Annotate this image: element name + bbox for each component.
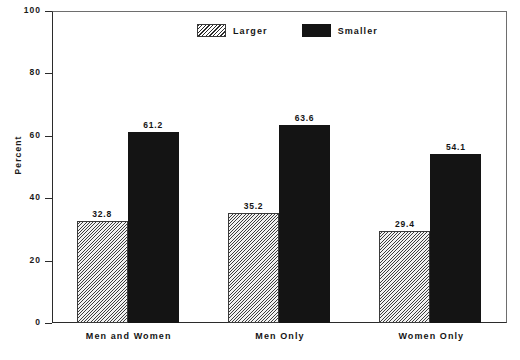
y-axis-tick-label: 40 <box>0 192 41 202</box>
bar-value-label: 29.4 <box>395 219 415 229</box>
hatch-swatch-icon <box>197 24 226 37</box>
bar-value-label: 32.8 <box>92 209 112 219</box>
y-axis-tick-label: 80 <box>0 67 41 77</box>
y-axis-tick-label: 20 <box>0 255 41 265</box>
bar-smaller-men-and-women: 61.2 <box>128 132 179 323</box>
legend: LargerSmaller <box>197 24 378 37</box>
bar-value-label: 61.2 <box>143 120 163 130</box>
x-axis-label-women-only: Women Only <box>356 331 507 341</box>
y-axis-title: Percent <box>13 115 23 195</box>
x-axis-label-men-only: Men Only <box>204 331 355 341</box>
y-axis-tick-label: 100 <box>0 5 41 15</box>
y-axis-tick-mark <box>45 198 52 199</box>
legend-item-smaller: Smaller <box>302 24 378 37</box>
y-axis-tick-mark <box>45 11 52 12</box>
y-axis-tick-mark <box>45 261 52 262</box>
solid-swatch-icon <box>302 24 331 37</box>
y-axis-tick-mark <box>45 323 52 324</box>
bars-layer: 32.861.235.263.629.454.1 <box>53 11 507 323</box>
bar-chart: Percent 020406080100 32.861.235.263.629.… <box>0 0 520 360</box>
bar-value-label: 35.2 <box>244 201 264 211</box>
legend-label: Smaller <box>338 26 378 36</box>
bar-value-label: 54.1 <box>446 142 466 152</box>
bar-larger-men-and-women: 32.8 <box>77 221 128 323</box>
bar-larger-men-only: 35.2 <box>228 213 279 323</box>
x-axis-label-men-and-women: Men and Women <box>53 331 204 341</box>
y-axis-tick-mark <box>45 136 52 137</box>
bar-value-label: 63.6 <box>295 113 315 123</box>
bar-larger-women-only: 29.4 <box>379 231 430 323</box>
y-axis-tick-mark <box>45 73 52 74</box>
legend-item-larger: Larger <box>197 24 268 37</box>
bar-smaller-women-only: 54.1 <box>430 154 481 323</box>
bar-smaller-men-only: 63.6 <box>279 125 330 323</box>
legend-label: Larger <box>233 26 268 36</box>
y-axis-tick-label: 60 <box>0 130 41 140</box>
y-axis-tick-label: 0 <box>0 317 41 327</box>
